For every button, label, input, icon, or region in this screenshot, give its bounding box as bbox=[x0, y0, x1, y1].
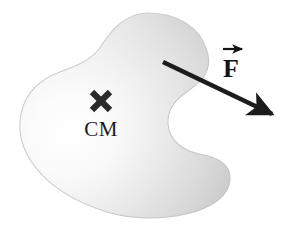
force-vector-label: F bbox=[223, 54, 239, 83]
diagram-canvas: CM F bbox=[0, 0, 289, 230]
rigid-body-shape bbox=[20, 13, 230, 218]
physics-diagram-figure: CM F bbox=[0, 0, 289, 230]
center-of-mass-label: CM bbox=[84, 117, 117, 141]
rigid-body-sheen bbox=[20, 13, 230, 218]
